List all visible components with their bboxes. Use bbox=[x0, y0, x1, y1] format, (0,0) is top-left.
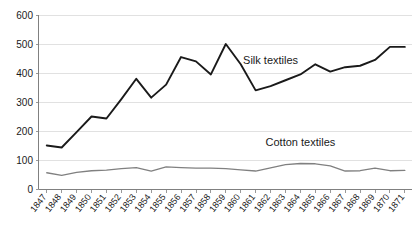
y-tick-label: 600 bbox=[16, 10, 33, 21]
silk-series-label: Silk textiles bbox=[243, 54, 299, 66]
y-tick-label: 500 bbox=[16, 39, 33, 50]
y-tick-label: 0 bbox=[27, 184, 33, 195]
cotton-series-label: Cotton textiles bbox=[266, 136, 336, 148]
y-tick-label: 200 bbox=[16, 126, 33, 137]
line-chart: 0100200300400500600 18471848184918501851… bbox=[0, 0, 418, 233]
chart-container: 0100200300400500600 18471848184918501851… bbox=[0, 0, 418, 233]
y-tick-label: 100 bbox=[16, 155, 33, 166]
y-tick-label: 300 bbox=[16, 97, 33, 108]
y-tick-label: 400 bbox=[16, 68, 33, 79]
